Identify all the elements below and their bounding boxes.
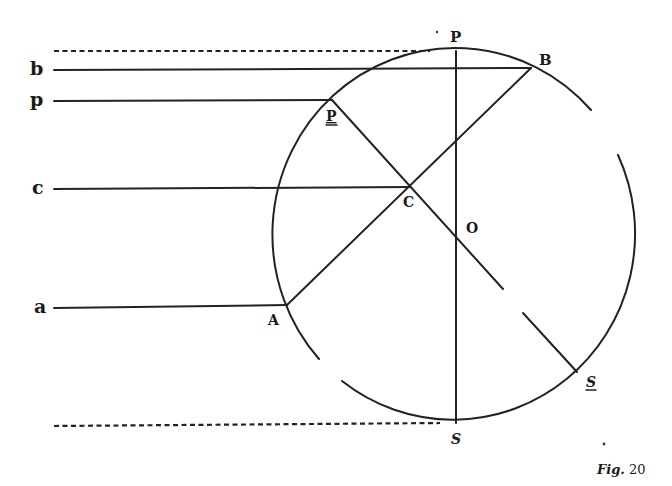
label-point-p-top: P [450,28,461,46]
label-point-o: O [466,220,478,236]
label-point-a: A [267,312,280,328]
print-dot-bottom [603,443,606,446]
label-a: a [34,295,46,317]
caption-number: 20 [629,462,646,477]
line-b [54,68,531,70]
label-point-s-bottom: S [451,431,461,447]
label-c: c [32,176,44,198]
dashed-line-bottom [54,423,440,426]
label-point-b: B [539,51,552,69]
label-point-c: C [403,194,414,210]
line-p-underlined-to-gap [332,100,503,289]
line-c [54,187,410,189]
line-a [54,305,287,308]
circle-arc-main [272,48,591,359]
label-point-p-underlined: P [326,108,337,124]
label-point-s-underlined: S [586,374,596,390]
label-p: p [30,88,43,110]
print-dot-top [436,31,438,33]
line-gap-to-s-underlined [523,313,577,372]
label-b: b [30,57,43,79]
caption-prefix: Fig. [596,462,625,477]
figure-20-diagram: b p c a P B P C O A S S Fig. 20 [0,0,672,486]
line-p [54,100,332,101]
figure-caption: Fig. 20 [596,462,645,477]
